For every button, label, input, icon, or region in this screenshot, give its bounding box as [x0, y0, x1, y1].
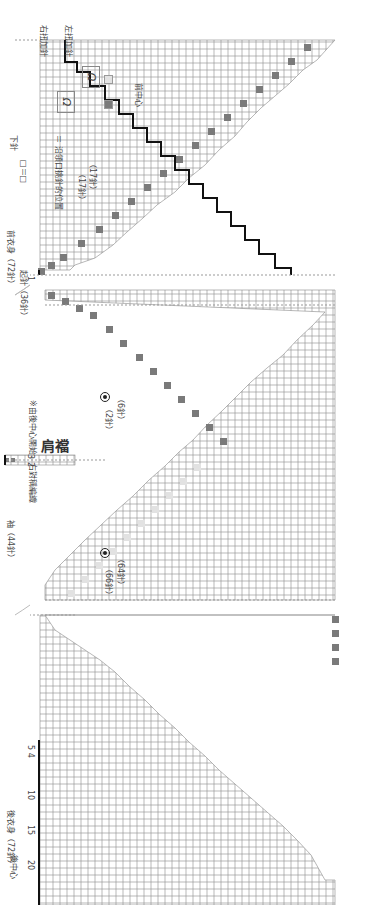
- pickup-marker-icon: [100, 392, 110, 402]
- back-tick-20: 20: [26, 860, 35, 870]
- right-twist-label: 右扭加針: [39, 25, 50, 57]
- sleeve-count-2: （2針）: [104, 405, 115, 434]
- back-center-label: 後中心: [9, 855, 20, 879]
- sleeve-count-6: （6針）: [116, 395, 127, 424]
- light-swatch: [104, 75, 113, 84]
- dark-swatch: [104, 100, 113, 109]
- pickup-marker-icon: [100, 548, 110, 558]
- pickup-legend-label: ＝ 沿領口挑針的位置: [54, 135, 65, 210]
- knit-symbol: □＝□: [19, 160, 30, 183]
- sleeve-tick-2: 2: [26, 462, 35, 467]
- front-count-17a: （17針）: [88, 160, 99, 194]
- back-tick-10: 10: [26, 790, 35, 800]
- sleeve-tick-3: 3: [26, 454, 35, 459]
- front-center-label: 前中心: [134, 83, 145, 107]
- right-twist-symbol: Ω: [57, 91, 75, 113]
- front-axis-start: 1: [26, 276, 35, 281]
- knit-label: 下針: [9, 135, 20, 151]
- back-tick-15: 15: [26, 825, 35, 835]
- knitting-chart-canvas: 肩襠 ※由後中心開始左右對稱編織 前衣身（72針） 袖（44針） 後衣身（72針…: [0, 0, 375, 905]
- left-twist-label: 左扭加針: [64, 25, 75, 57]
- back-count-64: （64針）: [116, 555, 127, 589]
- back-tick-54: 5 4: [26, 745, 35, 758]
- front-count-17b: （17針）: [77, 170, 88, 204]
- left-twist-symbol: Ω: [82, 66, 100, 88]
- back-count-66: （66針）: [104, 565, 115, 599]
